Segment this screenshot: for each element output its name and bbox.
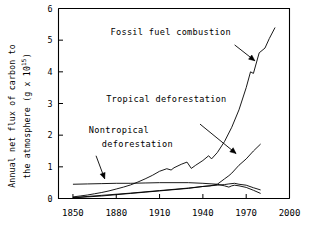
- nontropical-deforestation-label-line1: Nontropical: [89, 125, 149, 135]
- y-tick-label: 1: [47, 162, 52, 172]
- fossil-fuel-label: Fossil fuel combustion: [110, 27, 230, 37]
- y-tick-label: 0: [47, 194, 52, 204]
- x-tick-label: 2000: [279, 208, 301, 218]
- x-tick-label: 1940: [192, 208, 214, 218]
- x-tick-label: 1970: [235, 208, 257, 218]
- chart-figure: Annual net flux of carbon to the atmosph…: [0, 0, 309, 232]
- tropical-deforestation-label: Tropical deforestation: [106, 94, 226, 104]
- x-axis-ticks: 185018801910194019702000: [62, 194, 300, 218]
- annotations: Fossil fuel combustionTropical deforesta…: [89, 27, 255, 178]
- y-tick-label: 4: [47, 67, 52, 77]
- series-line-nontropical-deforestation: [73, 183, 261, 194]
- x-tick-label: 1910: [149, 208, 171, 218]
- y-tick-label: 2: [47, 130, 52, 140]
- y-axis-ticks: 0123456: [47, 4, 63, 204]
- tropical-deforestation-label-arrow-head: [230, 148, 236, 154]
- nontropical-deforestation-label-line2: deforestation: [102, 139, 173, 149]
- nontropical-deforestation-label-arrow-head: [100, 172, 105, 178]
- plot-svg: 0123456 185018801910194019702000 Fossil …: [0, 0, 309, 232]
- x-tick-label: 1880: [105, 208, 127, 218]
- fossil-fuel-label-arrow-head: [249, 55, 255, 61]
- y-tick-label: 3: [47, 99, 52, 109]
- y-tick-label: 5: [47, 35, 52, 45]
- x-tick-label: 1850: [62, 208, 84, 218]
- y-tick-label: 6: [47, 4, 52, 14]
